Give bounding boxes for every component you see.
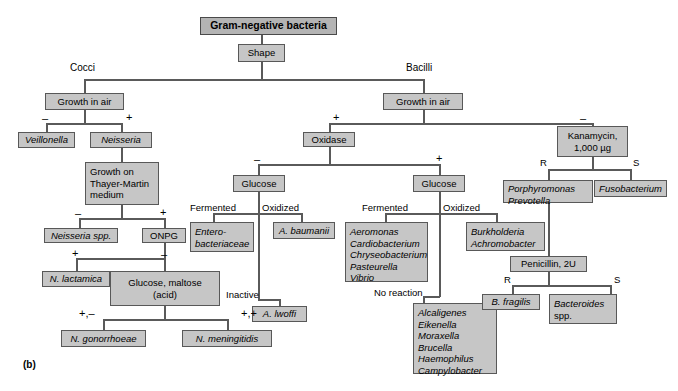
line-onpg-split (76, 258, 165, 260)
sign-meningitidis: +,+ (241, 308, 257, 318)
line-glucose-left-ox (258, 213, 302, 215)
node-a-baumanii: A. baumanii (273, 222, 335, 239)
line-to-oxidase (329, 123, 331, 132)
bacteroides-genus: Bacteroides (554, 298, 604, 310)
label-no-reaction: No reaction (374, 288, 423, 298)
node-a-lwoffi: A. lwoffi (252, 306, 307, 322)
sign-oxidase-minus: – (254, 154, 260, 164)
node-title: Gram-negative bacteria (200, 17, 337, 35)
line-cocci-air-down (84, 110, 86, 124)
node-glucose-left: Glucose (233, 175, 285, 192)
node-porphyromonas-prevotella: Porphyromonas Prevotella (503, 180, 593, 203)
node-bacilli-growth-in-air: Growth in air (383, 93, 463, 110)
line-inactive-lwoffi (279, 299, 281, 306)
line-penicillin-down (548, 272, 550, 286)
line-to-bacteroides (610, 285, 612, 294)
line-shape-down (261, 62, 263, 80)
node-n-gonorrhoeae: N. gonorrhoeae (61, 330, 146, 347)
sign-cocci-air-plus: + (126, 112, 132, 122)
node-cocci-growth-in-air: Growth in air (45, 93, 124, 110)
label-fermented-left: Fermented (190, 203, 236, 213)
line-glucose-left-ferm (213, 213, 259, 215)
line-ferm-list (385, 213, 387, 222)
node-onpg: ONPG (142, 228, 186, 243)
sign-bacilli-air-minus: – (580, 113, 586, 123)
label-kanamycin-s: S (633, 158, 639, 168)
label-penicillin-r: R (504, 275, 511, 285)
line-to-bfragilis (512, 285, 514, 294)
line-ox-list (496, 213, 498, 222)
panel-label: (b) (23, 359, 36, 370)
line-to-lactamica (76, 258, 78, 271)
node-shape: Shape (238, 44, 285, 62)
line-ferm-enterobact (213, 213, 215, 222)
node-fermented-list: Aeromonas Cardiobacterium Chryseobacteri… (345, 222, 428, 282)
label-inactive: Inactive (226, 290, 259, 300)
line-to-glucose-left (258, 164, 260, 175)
node-kanamycin: Kanamycin, 1,000 µg (557, 126, 628, 157)
node-oxidase: Oxidase (303, 132, 355, 147)
node-thayer-martin: Growth on Thayer-Martin medium (85, 162, 159, 205)
line-to-meningitidis (227, 319, 229, 330)
sign-gonorrhoeae: +,– (79, 308, 95, 318)
line-oxidase-down (329, 147, 331, 165)
node-no-reaction-list: Alcaligenes Eikenella Moraxella Brucella… (413, 303, 497, 374)
line-glucose-right-stem (439, 192, 441, 297)
sign-tm-plus: + (160, 207, 166, 217)
flowchart-canvas: Gram-negative bacteria Shape Growth in a… (0, 0, 678, 391)
line-bacilli-air-down (423, 110, 425, 124)
line-glucmalt-down (164, 306, 166, 320)
line-tm-down (121, 205, 123, 219)
node-veillonella: Veillonella (18, 132, 75, 148)
line-bacilli-air-split (329, 123, 593, 125)
line-to-bacilli (423, 79, 425, 94)
line-glucose-right-ox (439, 213, 497, 215)
label-fermented-right: Fermented (362, 203, 408, 213)
line-neisseria-tm (121, 148, 123, 162)
sign-onpg-minus: – (161, 249, 167, 259)
line-penicillin-split (512, 285, 611, 287)
label-bacilli: Bacilli (406, 63, 432, 73)
line-cocci-air-split (46, 123, 122, 125)
node-glucose-maltose: Glucose, maltose (acid) (110, 271, 220, 306)
sign-cocci-air-minus: – (42, 113, 48, 123)
label-penicillin-s: S (614, 275, 620, 285)
line-kanamycin-split (548, 169, 631, 171)
line-to-porphyromonas (548, 169, 550, 180)
line-shape-split (84, 79, 424, 81)
line-tm-split (79, 218, 165, 220)
node-n-lactamica: N. lactamica (42, 271, 110, 287)
sign-onpg-plus: + (72, 248, 78, 258)
node-oxidized-list: Burkholderia Achromobacter (466, 222, 545, 251)
line-porph-penicillin (548, 203, 550, 256)
bacteroides-spp-suffix: spp. (554, 310, 572, 322)
line-glucose-left-inactive (258, 299, 280, 301)
label-cocci: Cocci (70, 63, 95, 73)
line-to-cocci (84, 79, 86, 94)
node-b-fragilis: B. fragilis (482, 294, 540, 310)
line-to-neisseria-spp (79, 218, 81, 228)
line-to-onpg (164, 218, 166, 228)
sign-bacilli-air-plus: + (333, 112, 339, 122)
line-ox-baumanii (301, 213, 303, 222)
line-glucmalt-split (103, 319, 228, 321)
line-to-fusobacterium (630, 169, 632, 180)
line-glucose-left-stem (258, 192, 260, 300)
node-neisseria-spp: Neisseria spp. (44, 228, 118, 243)
label-kanamycin-r: R (540, 158, 547, 168)
node-bacteroides-spp: Bacteroides spp. (549, 294, 617, 324)
label-oxidized-left: Oxidized (262, 203, 299, 213)
node-neisseria: Neisseria (90, 132, 152, 148)
line-glucose-right-ferm (385, 213, 440, 215)
line-to-glucose-right (439, 164, 441, 175)
line-oxidase-split (258, 164, 440, 166)
node-n-meningitidis: N. meningitidis (182, 330, 272, 347)
node-fusobacterium: Fusobacterium (594, 180, 667, 197)
line-noreact-list (423, 296, 425, 303)
label-oxidized-right: Oxidized (443, 203, 480, 213)
sign-oxidase-plus: + (436, 153, 442, 163)
line-to-gonorrhoeae (103, 319, 105, 330)
node-enterobacteriaceae: Entero- bacteriaceae (190, 222, 254, 252)
node-penicillin: Penicillin, 2U (510, 256, 587, 272)
node-glucose-right: Glucose (413, 175, 465, 192)
